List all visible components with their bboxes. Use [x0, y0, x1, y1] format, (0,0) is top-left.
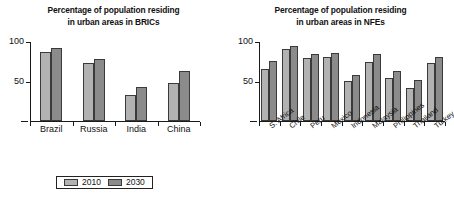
bar-2010 — [323, 57, 331, 121]
x-axis-label: Russia — [73, 124, 116, 134]
x-axis-label: China — [158, 124, 201, 134]
bar-2010 — [168, 83, 179, 121]
x-axis-tick — [259, 122, 260, 126]
dual-bar-chart-figure: Percentage of population residing in urb… — [0, 0, 454, 209]
x-axis-label: India — [115, 124, 158, 134]
bar-group — [73, 42, 116, 121]
bar-2030 — [269, 61, 277, 121]
bar-2030 — [311, 54, 319, 121]
x-axis-tick — [200, 122, 201, 126]
x-axis-labels-brics: BrazilRussiaIndiaChina — [30, 124, 200, 134]
bar-2030 — [179, 71, 190, 121]
bar-2010 — [40, 52, 51, 121]
y-tick-label-100: 100 — [9, 37, 24, 46]
bar-2010 — [261, 69, 269, 121]
chart-panel-nfes: Percentage of population residing in urb… — [227, 0, 454, 209]
bar-group — [115, 42, 158, 121]
y-tick-label-100: 100 — [238, 37, 253, 46]
y-tick-0 — [250, 121, 257, 122]
bar-2030 — [136, 87, 147, 121]
chart-panel-brics: Percentage of population residing in urb… — [0, 0, 227, 209]
legend-label-2010: 2010 — [82, 178, 101, 187]
bar-group — [321, 42, 342, 121]
bar-2030 — [51, 48, 62, 121]
legend-label-2030: 2030 — [126, 178, 145, 187]
y-tick-0 — [21, 121, 28, 122]
bar-group — [342, 42, 363, 121]
chart-title-line2: in urban areas in BRICs — [0, 17, 227, 29]
plot-area-brics: 100 50 — [30, 42, 200, 122]
bar-group — [158, 42, 201, 121]
chart-title-line2: in urban areas in NFEs — [227, 17, 454, 29]
legend-item-2010: 2010 — [64, 178, 101, 187]
chart-title-line1: Percentage of population residing — [274, 5, 406, 15]
legend-item-2030: 2030 — [108, 178, 145, 187]
bar-2010 — [83, 63, 94, 121]
chart-title-nfes: Percentage of population residing in urb… — [227, 5, 454, 28]
bar-2010 — [303, 58, 311, 121]
legend-brics: 2010 2030 — [56, 176, 153, 189]
bar-2010 — [125, 95, 136, 121]
bar-2030 — [94, 59, 105, 121]
chart-title-brics: Percentage of population residing in urb… — [0, 5, 227, 28]
bar-2030 — [331, 53, 339, 121]
bar-group — [300, 42, 321, 121]
bar-groups-brics — [30, 42, 200, 121]
bar-group — [30, 42, 73, 121]
y-tick-label-50: 50 — [243, 77, 253, 86]
y-tick-label-50: 50 — [14, 77, 24, 86]
legend-swatch-2010 — [64, 179, 78, 186]
legend-swatch-2030 — [108, 179, 122, 186]
x-axis-label: Brazil — [30, 124, 73, 134]
bar-group — [259, 42, 280, 121]
chart-title-line1: Percentage of population residing — [47, 5, 179, 15]
